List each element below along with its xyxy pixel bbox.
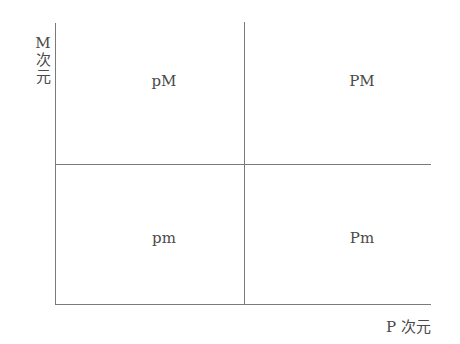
y-axis-label-ji: 次 — [34, 52, 52, 69]
quadrant-bottom-left-label: pm — [152, 229, 176, 247]
y-axis-label-m: M — [34, 35, 52, 52]
y-axis-label-gen: 元 — [34, 69, 52, 86]
x-axis-line — [55, 304, 431, 305]
y-axis-label: M 次 元 — [34, 35, 52, 86]
horizontal-divider — [55, 164, 431, 165]
quadrant-top-right-label: PM — [349, 72, 374, 90]
quadrant-bottom-right-label: Pm — [350, 229, 374, 247]
quadrant-top-left-label: pM — [152, 72, 177, 90]
x-axis-label: P 次元 — [386, 315, 431, 336]
